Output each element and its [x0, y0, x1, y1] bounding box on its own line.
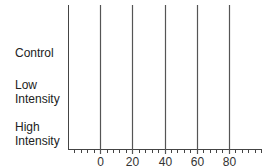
x-tick-label: 60: [191, 155, 205, 167]
x-tick-label: 40: [159, 155, 173, 167]
x-tick-label: 80: [223, 155, 237, 167]
x-tick-label: 0: [97, 155, 104, 167]
chart-plot-area: 020406080: [0, 0, 271, 167]
x-tick-label: 20: [126, 155, 140, 167]
